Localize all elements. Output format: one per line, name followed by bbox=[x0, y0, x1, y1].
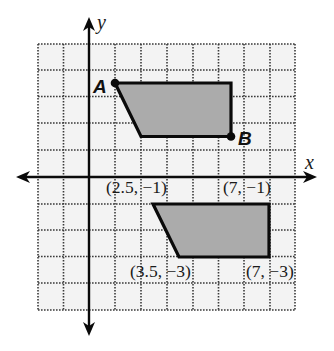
coord-label-top-left: (2.5, −1) bbox=[106, 177, 167, 197]
x-axis-label: x bbox=[304, 151, 314, 173]
point-a-dot bbox=[111, 79, 120, 88]
coord-label-bottom-left: (3.5, −3) bbox=[130, 261, 191, 281]
point-b-label: B bbox=[238, 128, 252, 149]
y-axis-label: y bbox=[95, 11, 106, 34]
point-a-label: A bbox=[92, 76, 107, 97]
coordinate-plane-diagram: y x A B (2.5, −1) (7, −1) (3.5, −3) (7, … bbox=[0, 0, 334, 351]
coord-label-top-right: (7, −1) bbox=[223, 177, 271, 197]
coord-label-bottom-right: (7, −3) bbox=[246, 261, 294, 281]
point-b-dot bbox=[227, 132, 236, 141]
